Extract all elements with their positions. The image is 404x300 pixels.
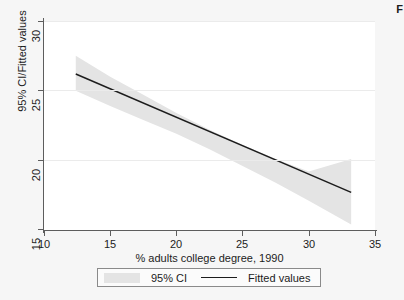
gridline-y	[44, 90, 375, 91]
legend-item-ci: 95% CI	[98, 269, 187, 286]
x-tick-mark	[375, 231, 376, 236]
x-tick-label: 35	[360, 238, 390, 250]
x-tick-mark	[242, 231, 243, 236]
x-tick-mark	[176, 231, 177, 236]
x-tick-mark	[309, 231, 310, 236]
x-tick-mark	[110, 231, 111, 236]
x-axis-title: % adults college degree, 1990	[44, 252, 375, 264]
y-tick-label: 30	[30, 21, 42, 51]
x-tick-label: 25	[227, 238, 257, 250]
y-axis-title: 95% CI/Fitted values	[16, 0, 28, 131]
x-tick-mark	[44, 231, 45, 236]
figure: F 30 25 20 15 10 15 20 25 30 35 95% CI/F…	[0, 0, 404, 300]
band-swatch-icon	[104, 273, 140, 283]
legend: 95% CI Fitted values	[97, 268, 321, 287]
x-tick-label: 10	[29, 238, 59, 250]
y-tick-label: 20	[30, 160, 42, 190]
legend-label-ci: 95% CI	[151, 272, 187, 284]
x-tick-label: 15	[95, 238, 125, 250]
x-tick-label: 30	[294, 238, 324, 250]
y-axis-line	[43, 18, 44, 233]
legend-label-fitted: Fitted values	[248, 272, 310, 284]
plot-canvas	[44, 21, 375, 230]
x-axis-line	[43, 230, 377, 231]
y-tick-label: 25	[30, 90, 42, 120]
gridline-y	[44, 21, 375, 22]
corner-page-mark: F	[396, 3, 403, 15]
line-swatch-icon	[201, 277, 237, 278]
x-tick-label: 20	[161, 238, 191, 250]
gridline-y	[44, 160, 375, 161]
legend-item-fitted: Fitted values	[187, 269, 310, 286]
